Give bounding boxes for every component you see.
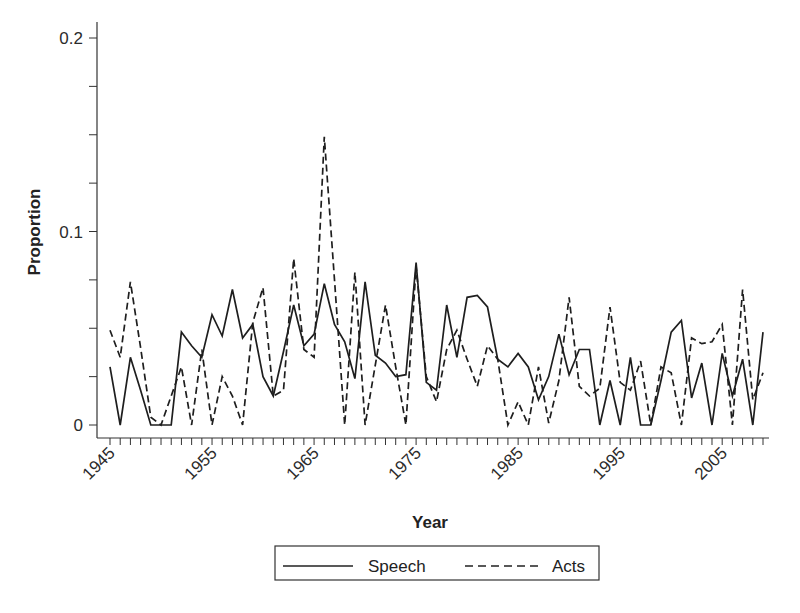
legend: Speech Acts	[275, 546, 599, 580]
legend-label-speech: Speech	[368, 557, 426, 576]
x-tick-label: 2005	[691, 443, 731, 483]
x-tick-label: 1945	[79, 443, 119, 483]
y-axis: 00.10.2	[59, 22, 97, 438]
x-tick-label: 1965	[283, 443, 323, 483]
y-axis-title: Proportion	[25, 189, 44, 276]
x-tick-label: 1955	[181, 443, 221, 483]
legend-box	[275, 546, 599, 580]
y-tick-label: 0.1	[59, 223, 83, 242]
x-axis-title: Year	[412, 513, 448, 532]
y-tick-label: 0	[74, 416, 83, 435]
series-acts-line	[110, 137, 763, 425]
chart-canvas: 00.10.2 1945195519651975198519952005 Pro…	[0, 0, 800, 613]
series-layer	[110, 137, 763, 425]
x-tick-label: 1985	[487, 443, 527, 483]
y-tick-label: 0.2	[59, 29, 83, 48]
x-tick-label: 1975	[385, 443, 425, 483]
x-tick-label: 1995	[589, 443, 629, 483]
legend-label-acts: Acts	[552, 557, 585, 576]
x-axis: 1945195519651975198519952005	[79, 438, 769, 484]
line-chart: 00.10.2 1945195519651975198519952005 Pro…	[0, 0, 800, 613]
